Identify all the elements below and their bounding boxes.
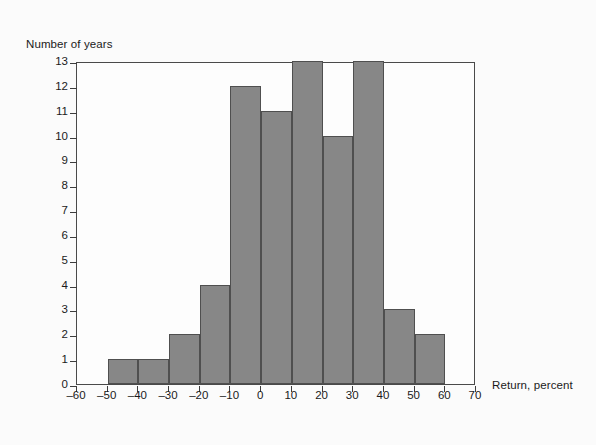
y-axis-tick bbox=[70, 361, 77, 362]
histogram-bar bbox=[230, 86, 261, 384]
histogram-bar bbox=[261, 111, 292, 384]
y-axis-title: Number of years bbox=[26, 38, 113, 50]
histogram-bar bbox=[169, 334, 200, 384]
y-axis-tick-labels: 012345678910111213 bbox=[40, 62, 68, 385]
y-axis-tick bbox=[70, 162, 77, 163]
y-axis-tick bbox=[70, 311, 77, 312]
x-axis-tick-label: 70 bbox=[455, 389, 495, 402]
y-axis-tick bbox=[70, 262, 77, 263]
y-axis-tick bbox=[70, 287, 77, 288]
histogram-bar bbox=[384, 309, 415, 384]
y-axis-tick-label: 13 bbox=[42, 56, 68, 68]
histogram-bar bbox=[353, 61, 384, 384]
plot-area bbox=[76, 62, 475, 385]
y-axis-tick bbox=[70, 63, 77, 64]
x-axis-title: Return, percent bbox=[492, 379, 573, 391]
y-axis-tick-label: 6 bbox=[42, 230, 68, 242]
histogram-bar bbox=[200, 285, 231, 384]
bars-container bbox=[77, 63, 474, 384]
y-axis-tick-label: 1 bbox=[42, 354, 68, 366]
histogram-bar bbox=[415, 334, 446, 384]
y-axis-tick bbox=[70, 187, 77, 188]
y-axis-tick-label: 10 bbox=[42, 131, 68, 143]
y-axis-tick bbox=[70, 88, 77, 89]
y-axis-tick-label: 9 bbox=[42, 156, 68, 168]
histogram-bar bbox=[292, 61, 323, 384]
y-axis-tick-label: 7 bbox=[42, 205, 68, 217]
histogram-bar bbox=[108, 359, 139, 384]
y-axis-tick-label: 8 bbox=[42, 180, 68, 192]
y-axis-tick-label: 12 bbox=[42, 81, 68, 93]
y-axis-tick-label: 11 bbox=[42, 106, 68, 118]
histogram-bar bbox=[323, 136, 354, 384]
y-axis-tick-label: 4 bbox=[42, 280, 68, 292]
histogram-bar bbox=[138, 359, 169, 384]
histogram-figure: Number of years 012345678910111213 –60–5… bbox=[0, 0, 596, 445]
y-axis-tick-label: 5 bbox=[42, 255, 68, 267]
y-axis-tick-label: 3 bbox=[42, 305, 68, 317]
y-axis-tick bbox=[70, 336, 77, 337]
y-axis-tick-label: 2 bbox=[42, 330, 68, 342]
y-axis-tick bbox=[70, 212, 77, 213]
y-axis-tick bbox=[70, 237, 77, 238]
x-axis-tick-labels: –60–50–40–30–20–10010203040506070 bbox=[76, 389, 475, 405]
y-axis-tick bbox=[70, 113, 77, 114]
y-axis-tick bbox=[70, 138, 77, 139]
